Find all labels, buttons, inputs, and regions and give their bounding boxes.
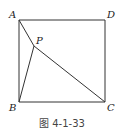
label-a: A xyxy=(8,9,16,20)
label-c: C xyxy=(107,102,115,113)
segment-ap xyxy=(19,20,34,46)
label-d: D xyxy=(106,9,115,20)
figure-caption: 图 4-1-33 xyxy=(0,115,124,130)
square-abcd xyxy=(19,20,105,102)
segment-pc xyxy=(34,46,105,102)
label-b: B xyxy=(8,102,16,113)
label-p: P xyxy=(35,35,43,46)
segment-bp xyxy=(19,46,34,102)
